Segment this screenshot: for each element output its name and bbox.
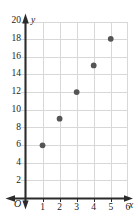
- x-tick-label: 2: [54, 203, 66, 213]
- x-tick-label: 3: [71, 203, 83, 213]
- x-tick-label: 1: [37, 203, 49, 213]
- y-tick-label: 4: [5, 158, 21, 168]
- y-axis-arrow-up: [22, 14, 29, 24]
- y-tick-label: 6: [5, 140, 21, 150]
- y-tick-label: 10: [5, 105, 21, 115]
- y-tick-label: 2: [5, 176, 21, 186]
- y-axis-label: y: [31, 16, 35, 26]
- x-axis-label: x: [129, 201, 133, 211]
- x-tick-label: 4: [88, 203, 100, 213]
- y-tick-label: 8: [5, 123, 21, 133]
- x-tick-label: 5: [105, 203, 117, 213]
- data-point: [57, 116, 63, 122]
- y-axis-arrow-down: [22, 201, 28, 210]
- y-tick-label: 14: [5, 69, 21, 79]
- data-point: [40, 142, 46, 148]
- y-tick-label: 20: [5, 16, 21, 26]
- origin-label: O: [14, 199, 21, 209]
- scatter-plot-figure: 2468101214161820 123456 y x O: [0, 0, 138, 217]
- data-point: [74, 89, 80, 95]
- data-point: [91, 63, 97, 69]
- y-tick-label: 18: [5, 34, 21, 44]
- data-point: [108, 36, 114, 42]
- y-tick-label: 12: [5, 87, 21, 97]
- y-tick-label: 16: [5, 52, 21, 62]
